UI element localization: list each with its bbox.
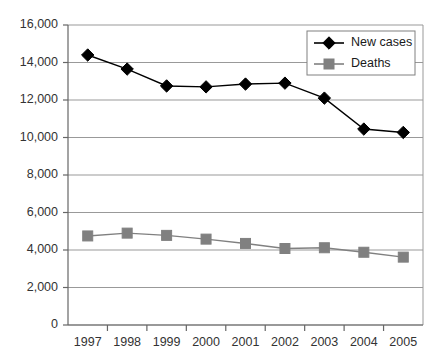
chart-container: 02,0004,0006,0008,00010,00012,00014,0001… bbox=[0, 0, 439, 363]
x-tick-label-1999: 1999 bbox=[153, 335, 181, 349]
data-point-marker bbox=[398, 252, 408, 262]
line-chart: 02,0004,0006,0008,00010,00012,00014,0001… bbox=[0, 0, 439, 363]
y-tick-label: 2,000 bbox=[27, 280, 58, 294]
y-tick-label: 4,000 bbox=[27, 242, 58, 256]
x-tick-label-2002: 2002 bbox=[271, 335, 299, 349]
x-tick-label-2000: 2000 bbox=[192, 335, 220, 349]
x-tick-label-2004: 2004 bbox=[350, 335, 378, 349]
data-point-marker bbox=[318, 92, 330, 104]
legend-label-0: New cases bbox=[351, 35, 412, 49]
data-point-marker bbox=[201, 234, 211, 244]
y-tick-label: 8,000 bbox=[27, 167, 58, 181]
x-axis-ticks: 199719981999200020012002200320042005 bbox=[74, 325, 417, 349]
y-tick-label: 14,000 bbox=[20, 55, 58, 69]
legend-label-1: Deaths bbox=[351, 56, 391, 70]
y-tick-label: 12,000 bbox=[20, 92, 58, 106]
y-axis-ticks: 02,0004,0006,0008,00010,00012,00014,0001… bbox=[20, 17, 68, 331]
data-point-marker bbox=[358, 123, 370, 135]
data-point-marker bbox=[319, 243, 329, 253]
data-point-marker bbox=[324, 59, 334, 69]
y-tick-label: 10,000 bbox=[20, 130, 58, 144]
series-deaths bbox=[83, 228, 409, 262]
data-point-marker bbox=[279, 77, 291, 89]
data-point-marker bbox=[162, 230, 172, 240]
data-point-marker bbox=[397, 126, 409, 138]
y-tick-label: 16,000 bbox=[20, 17, 58, 31]
data-point-marker bbox=[83, 231, 93, 241]
x-tick-label-2003: 2003 bbox=[310, 335, 338, 349]
data-point-marker bbox=[359, 247, 369, 257]
data-point-marker bbox=[82, 49, 94, 61]
data-point-marker bbox=[121, 63, 133, 75]
x-tick-label-2001: 2001 bbox=[232, 335, 260, 349]
y-tick-label: 0 bbox=[51, 317, 58, 331]
x-tick-label-2005: 2005 bbox=[389, 335, 417, 349]
data-point-marker bbox=[280, 244, 290, 254]
y-tick-label: 6,000 bbox=[27, 205, 58, 219]
data-point-marker bbox=[239, 78, 251, 90]
chart-legend: New casesDeaths bbox=[307, 31, 415, 75]
data-point-marker bbox=[122, 228, 132, 238]
data-point-marker bbox=[241, 238, 251, 248]
x-tick-label-1998: 1998 bbox=[113, 335, 141, 349]
x-tick-label-1997: 1997 bbox=[74, 335, 102, 349]
data-point-marker bbox=[160, 80, 172, 92]
data-point-marker bbox=[200, 81, 212, 93]
